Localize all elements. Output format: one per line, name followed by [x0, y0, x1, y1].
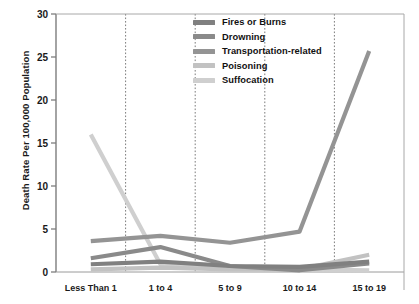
x-axis-tick-label: 5 to 9	[218, 283, 242, 293]
legend-item[interactable]: Transportation-related	[193, 46, 322, 56]
legend-label: Drowning	[222, 32, 265, 42]
legend-swatch-icon	[193, 63, 215, 68]
legend-label: Poisoning	[222, 61, 267, 71]
legend-item[interactable]: Fires or Burns	[193, 17, 322, 27]
x-axis-tick-label: Less Than 1	[65, 283, 117, 293]
x-axis-tick-label: 1 to 4	[149, 283, 173, 293]
legend-swatch-icon	[193, 78, 215, 83]
legend-label: Fires or Burns	[222, 17, 286, 27]
legend-swatch-icon	[193, 49, 215, 54]
legend-label: Transportation-related	[222, 46, 322, 56]
legend-label: Suffocation	[222, 75, 274, 85]
legend-item[interactable]: Drowning	[193, 32, 322, 42]
legend-swatch-icon	[193, 34, 215, 39]
line-chart: Death Rate Per 100,000 Population 051015…	[0, 0, 419, 304]
legend-swatch-icon	[193, 20, 215, 25]
x-axis-tick-label: 15 to 19	[352, 283, 386, 293]
x-axis-tick-label: 10 to 14	[283, 283, 317, 293]
legend-item[interactable]: Poisoning	[193, 61, 322, 71]
chart-legend: Fires or BurnsDrowningTransportation-rel…	[193, 17, 322, 85]
legend-item[interactable]: Suffocation	[193, 75, 322, 85]
